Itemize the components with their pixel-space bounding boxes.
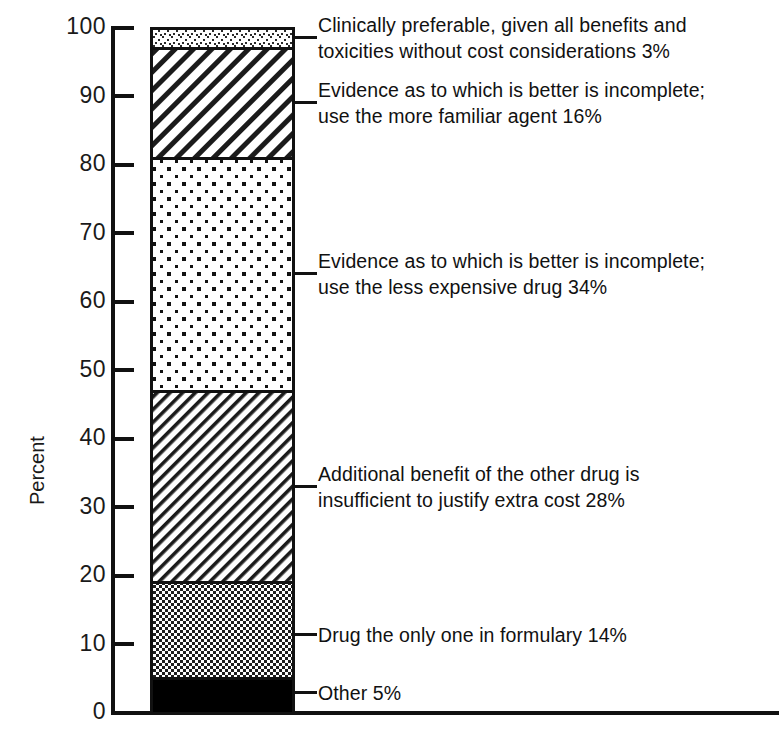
bar-segment-only-one-in-formulary	[151, 583, 293, 679]
bar-segment-less-expensive-drug	[151, 158, 293, 391]
y-tick-80	[115, 163, 134, 167]
y-tick-label-10: 10	[24, 630, 106, 657]
bar-stack	[151, 28, 293, 713]
callout-other: Other 5%	[318, 680, 401, 706]
y-tick-50	[115, 368, 134, 372]
y-tick-100	[115, 26, 134, 30]
y-tick-label-100: 100	[24, 13, 106, 40]
y-tick-10	[115, 642, 134, 646]
callout-less-expensive-drug: Evidence as to which is better is incomp…	[318, 248, 705, 300]
leader-line-only-one-in-formulary	[293, 633, 317, 636]
callout-insufficient-extra-cost: Additional benefit of the other drug is …	[318, 461, 640, 513]
leader-line-clinically-preferable	[293, 36, 317, 39]
leader-line-other	[293, 691, 317, 694]
y-tick-40	[115, 437, 134, 441]
y-axis-title: Percent	[26, 436, 49, 505]
leader-line-insufficient-extra-cost	[293, 485, 317, 488]
callout-more-familiar-agent: Evidence as to which is better is incomp…	[318, 77, 705, 129]
y-tick-90	[115, 94, 134, 98]
y-tick-20	[115, 574, 134, 578]
y-tick-label-20: 20	[24, 561, 106, 588]
y-tick-label-50: 50	[24, 356, 106, 383]
y-tick-30	[115, 505, 134, 509]
y-tick-label-80: 80	[24, 150, 106, 177]
leader-line-more-familiar-agent	[293, 101, 317, 104]
leader-line-less-expensive-drug	[293, 272, 317, 275]
callout-only-one-in-formulary: Drug the only one in formulary 14%	[318, 622, 627, 648]
y-tick-70	[115, 231, 134, 235]
y-tick-60	[115, 300, 134, 304]
bar-segment-clinically-preferable	[151, 28, 293, 49]
y-tick-label-60: 60	[24, 287, 106, 314]
bar-segment-more-familiar-agent	[151, 49, 293, 159]
bar-segment-insufficient-extra-cost	[151, 391, 293, 583]
y-axis	[111, 26, 134, 715]
y-tick-label-0: 0	[24, 698, 106, 725]
callout-clinically-preferable: Clinically preferable, given all benefit…	[318, 12, 687, 64]
stacked-bar-chart: 100 90 80 70 60 50 40 30 20 10 0 Percent…	[0, 0, 779, 739]
y-tick-label-90: 90	[24, 82, 106, 109]
y-tick-label-70: 70	[24, 219, 106, 246]
callout-leader-lines	[293, 36, 317, 694]
bar-segment-other	[151, 679, 293, 713]
